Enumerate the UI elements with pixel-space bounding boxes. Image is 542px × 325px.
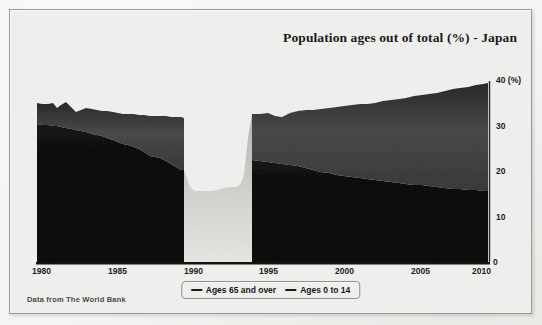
x-tick-label-2000: 2000: [335, 266, 354, 276]
y-tick-label-30: 30: [496, 121, 505, 131]
y-tick-label-10: 10: [496, 212, 505, 222]
chart-panel: Population ages out of total (%) - Japan: [9, 9, 532, 314]
y-tick-label-40: 40 (%): [496, 75, 521, 85]
x-tick-label-1985: 1985: [108, 266, 127, 276]
y-tick-label-0: 0: [493, 257, 498, 267]
plot-area: 40 (%) 30 20 10 0 1980 1985 1990 1995 20…: [28, 63, 498, 268]
screenshot-root: Population ages out of total (%) - Japan: [0, 0, 542, 325]
x-tick-label-2010: 2010: [472, 266, 491, 276]
y-tick-label-20: 20: [496, 166, 505, 176]
legend-dash-icon: [285, 289, 296, 291]
chart-title: Population ages out of total (%) - Japan: [283, 30, 517, 46]
legend-item-ages-0-to-14[interactable]: Ages 0 to 14: [285, 285, 350, 295]
source-attribution: Data from The World Bank: [27, 295, 126, 304]
x-tick-label-1995: 1995: [259, 266, 278, 276]
chart-legend[interactable]: Ages 65 and over Ages 0 to 14: [181, 281, 360, 299]
area-gap-missing-data: [184, 114, 252, 262]
legend-dash-icon: [191, 289, 202, 291]
legend-item-ages-65-and-over[interactable]: Ages 65 and over: [191, 285, 276, 295]
legend-label-ages-0-to-14: Ages 0 to 14: [300, 285, 350, 295]
area-chart-svg: [28, 63, 498, 268]
x-tick-label-2005: 2005: [411, 266, 430, 276]
x-tick-label-1990: 1990: [184, 266, 203, 276]
x-tick-label-1980: 1980: [32, 266, 51, 276]
legend-label-ages-65-and-over: Ages 65 and over: [206, 285, 276, 295]
